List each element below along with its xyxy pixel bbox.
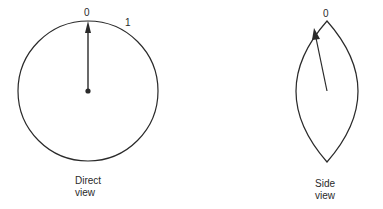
- direct-view-caption: Direct view: [75, 175, 101, 199]
- direct-view-caption-line1: Direct: [75, 175, 101, 187]
- side-view-caption: Side view: [315, 178, 335, 202]
- side-view-figure: [296, 21, 358, 162]
- direct-view-caption-line2: view: [75, 187, 101, 199]
- side-view-lens: [296, 21, 358, 162]
- direct-view-arrowhead-icon: [85, 21, 91, 33]
- direct-view-tick-1: 1: [125, 18, 131, 28]
- direct-view-center-dot: [85, 88, 90, 93]
- side-view-tick-0: 0: [323, 9, 329, 19]
- side-view-arrowhead-icon: [312, 28, 320, 40]
- direct-view-tick-0: 0: [84, 8, 90, 18]
- side-view-caption-line1: Side: [315, 178, 335, 190]
- side-view-caption-line2: view: [315, 190, 335, 202]
- direct-view-figure: [18, 21, 158, 161]
- side-view-arrow-shaft: [316, 38, 327, 91]
